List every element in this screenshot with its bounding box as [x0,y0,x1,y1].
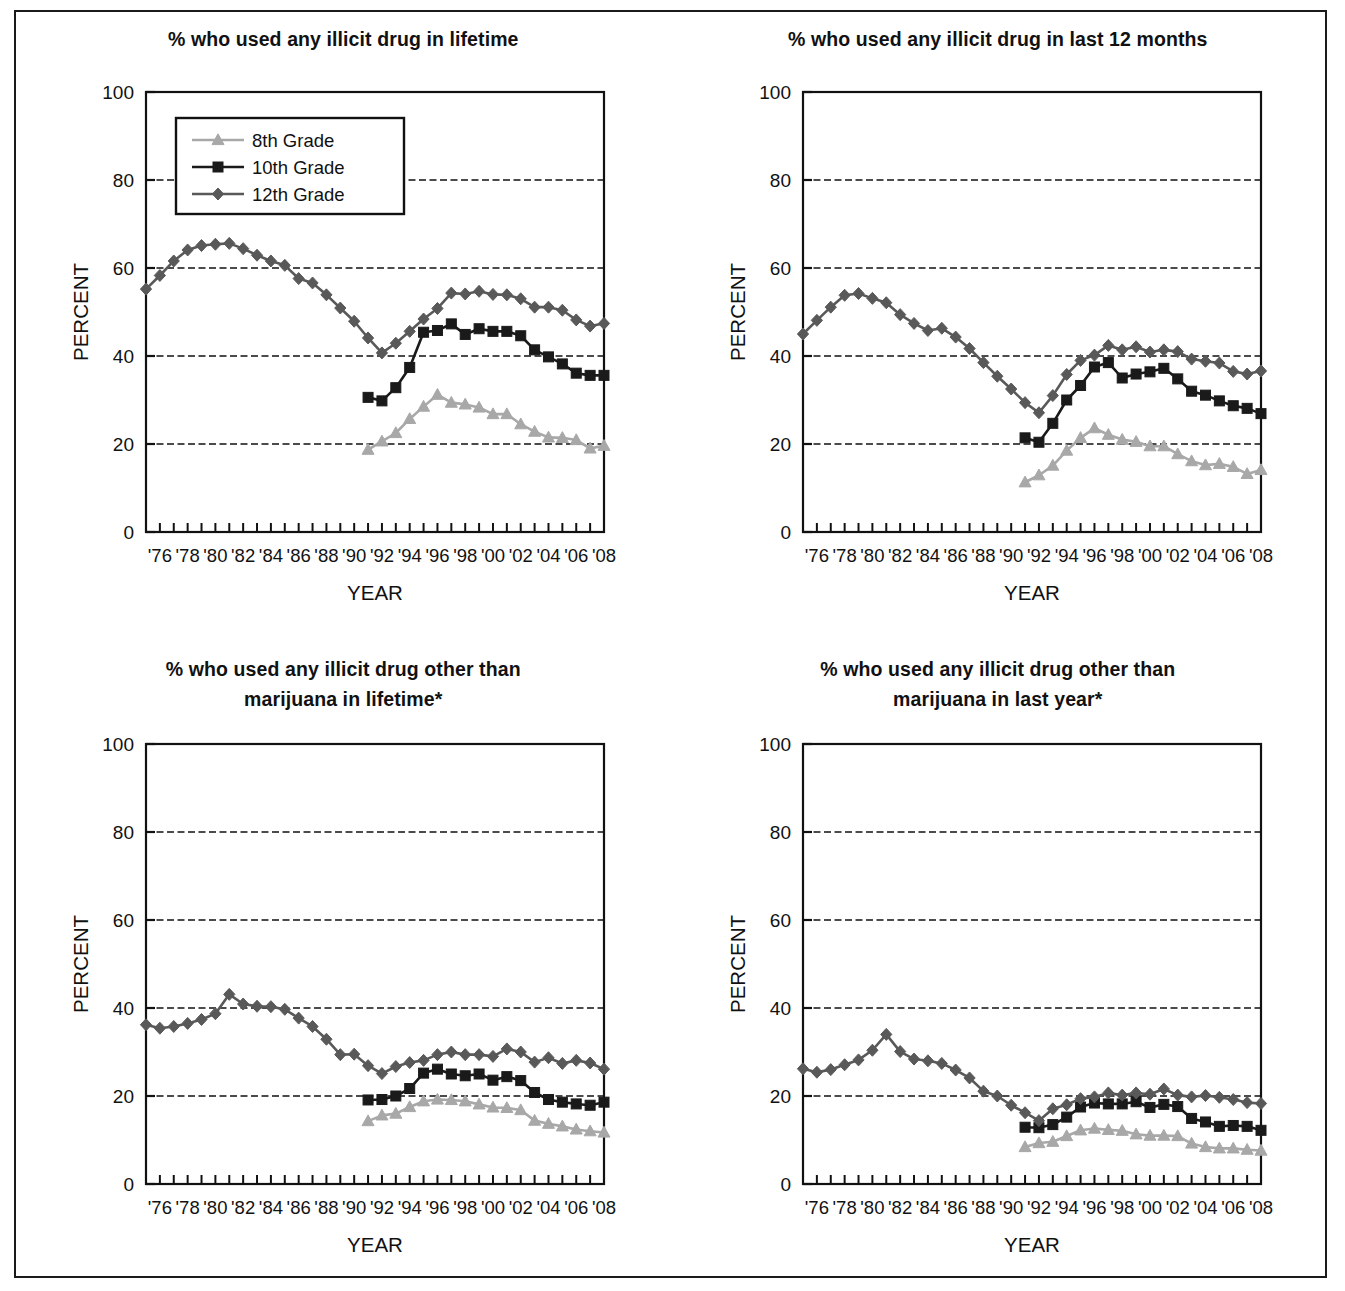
data-point-marker [154,1022,165,1034]
x-tick-label: '88 [971,545,995,566]
y-tick-label: 60 [113,258,134,279]
y-tick-label: 20 [769,1086,790,1107]
data-point-marker [908,317,919,329]
data-point-marker [488,326,498,336]
data-point-marker [473,285,484,297]
data-point-marker [474,1069,484,1079]
data-point-marker [488,1075,498,1085]
data-point-marker [1228,401,1238,411]
data-point-marker [1088,422,1100,433]
data-point-marker [825,1064,836,1076]
x-tick-label: '80 [203,1197,227,1218]
x-tick-label: '00 [481,545,505,566]
data-point-marker [1213,357,1224,369]
data-point-marker [922,1055,933,1067]
data-point-marker [460,329,470,339]
x-tick-label: '78 [832,545,856,566]
x-tick-label: '94 [398,1197,422,1218]
x-tick-label: '88 [971,1197,995,1218]
x-tick-label: '00 [1137,545,1161,566]
data-point-marker [1144,1088,1155,1100]
data-point-marker [1199,355,1210,367]
y-tick-label: 0 [123,1174,134,1195]
data-point-marker [279,1003,290,1015]
data-point-marker [543,301,554,313]
series-12th-grade [140,988,609,1079]
y-tick-label: 60 [113,910,134,931]
series-12th-grade [140,237,609,359]
data-point-marker [1227,365,1238,377]
x-tick-label: '76 [804,1197,828,1218]
x-tick-label: '02 [1165,1197,1189,1218]
chart-panel-lifetime-any-illicit: % who used any illicit drug in lifetime … [16,12,671,644]
chart-svg-bottom-right: 020406080100'76'78'80'82'84'86'88'90'92'… [715,722,1275,1262]
y-tick-label: 100 [759,82,791,103]
data-point-marker [460,1071,470,1081]
panel-title-line1: % who used any illicit drug other than [820,658,1175,680]
x-tick-label: '08 [1248,1197,1272,1218]
x-tick-label: '98 [453,1197,477,1218]
chart-svg-top-right: 020406080100'76'78'80'82'84'86'88'90'92'… [715,70,1275,610]
data-point-marker [432,1064,442,1074]
x-tick-label: '86 [943,1197,967,1218]
panel-title: % who used any illicit drug other than m… [16,654,671,714]
x-tick-label: '94 [398,545,422,566]
y-tick-label: 80 [113,822,134,843]
x-tick-label: '82 [231,545,255,566]
x-tick-label: '92 [1026,1197,1050,1218]
data-point-marker [1158,363,1168,373]
data-point-marker [557,359,567,369]
data-point-marker [1172,1089,1183,1101]
y-tick-label: 80 [769,170,790,191]
x-tick-label: '84 [259,1197,283,1218]
data-point-marker [598,440,610,451]
data-point-marker [1089,362,1099,372]
plot-area-top-left: 020406080100'76'78'80'82'84'86'88'90'92'… [58,70,618,610]
data-point-marker [852,288,863,300]
y-tick-label: 20 [113,434,134,455]
x-tick-label: '90 [342,545,366,566]
data-point-marker [516,331,526,341]
data-point-marker [391,383,401,393]
x-tick-label: '90 [342,1197,366,1218]
panel-grid: % who used any illicit drug in lifetime … [16,12,1325,1276]
y-tick-label: 20 [113,1086,134,1107]
data-point-marker [168,1020,179,1032]
data-point-marker [571,1099,581,1109]
y-tick-label: 60 [769,910,790,931]
y-tick-label: 40 [769,346,790,367]
data-point-marker [1255,464,1267,475]
data-point-marker [585,320,596,332]
data-point-marker [1242,403,1252,413]
data-point-marker [1255,365,1266,377]
data-point-marker [1061,1112,1071,1122]
data-point-marker [1075,380,1085,390]
data-point-marker [419,1068,429,1078]
data-point-marker [936,1057,947,1069]
series-10th-grade [1020,1097,1266,1136]
data-point-marker [405,362,415,372]
data-point-marker [362,444,374,455]
y-axis-label: PERCENT [69,915,92,1013]
y-tick-label: 100 [102,734,134,755]
data-point-marker [908,1053,919,1065]
data-point-marker [515,293,526,305]
chart-svg-top-left: 020406080100'76'78'80'82'84'86'88'90'92'… [58,70,618,610]
data-point-marker [1255,1097,1266,1109]
x-tick-label: '06 [1221,1197,1245,1218]
data-point-marker [265,1001,276,1013]
x-tick-label: '04 [1193,1197,1217,1218]
y-tick-label: 100 [759,734,791,755]
data-point-marker [516,1076,526,1086]
data-point-marker [1242,1121,1252,1131]
data-point-marker [1186,1113,1196,1123]
x-tick-label: '88 [314,1197,338,1218]
data-point-marker [182,1017,193,1029]
x-tick-label: '06 [564,545,588,566]
x-tick-label: '92 [370,545,394,566]
data-point-marker [598,317,609,329]
data-point-marker [446,319,456,329]
data-point-marker [251,249,262,261]
data-point-marker [811,1066,822,1078]
data-point-marker [1241,1097,1252,1109]
